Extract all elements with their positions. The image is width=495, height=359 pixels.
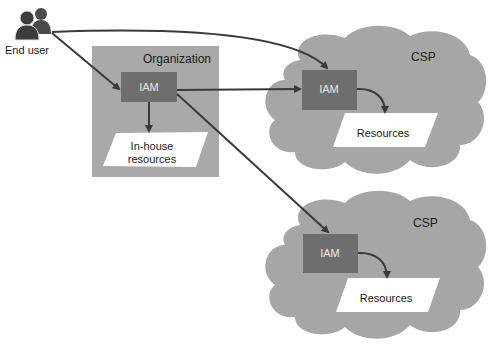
- csp-cloud-1: CSP IAM Resources: [265, 26, 486, 174]
- csp-iam-label: IAM: [319, 83, 339, 95]
- diagram-canvas: CSP IAM Resources CSP IAM Resources Orga…: [0, 0, 495, 359]
- organization-box: Organization IAM In-house resources: [92, 46, 219, 177]
- csp-iam-label: IAM: [320, 247, 340, 259]
- csp-label: CSP: [413, 216, 438, 230]
- users-icon: [15, 8, 51, 40]
- organization-label: Organization: [143, 52, 211, 66]
- end-user-label: End user: [5, 44, 49, 56]
- cloud-shape: [265, 26, 486, 174]
- in-house-resources-label-line2: resources: [128, 153, 177, 165]
- csp-label: CSP: [411, 50, 436, 64]
- org-iam-to-csp1-iam-arrow: [177, 89, 300, 90]
- cloud-shape: [265, 191, 486, 339]
- in-house-resources-label-line1: In-house: [131, 140, 174, 152]
- organization-iam-label: IAM: [139, 81, 159, 93]
- end-user: End user: [5, 8, 51, 56]
- csp-resources-label: Resources: [360, 292, 413, 304]
- csp-cloud-2: CSP IAM Resources: [265, 191, 486, 339]
- csp-resources-label: Resources: [357, 127, 410, 139]
